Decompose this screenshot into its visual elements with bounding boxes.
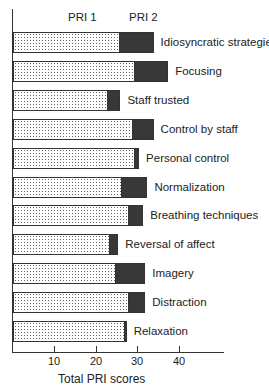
x-axis-label: Total PRI scores: [58, 372, 145, 386]
bar-segment-pri2: [121, 177, 147, 198]
x-tick-label: 40: [173, 355, 185, 367]
legend-pri2: PRI 2: [129, 11, 158, 23]
category-label: Idiosyncratic strategies: [161, 32, 269, 53]
x-axis: [12, 352, 224, 353]
stacked-bar-chart: PRI 1 PRI 2 10 20 30 40 Total PRI scores…: [0, 0, 269, 390]
category-label: Personal control: [146, 148, 229, 169]
bar-segment-pri1: [13, 263, 117, 284]
x-tick-label: 20: [90, 355, 102, 367]
category-label: Normalization: [154, 177, 224, 198]
x-tick-label: 30: [131, 355, 143, 367]
category-label: Staff trusted: [127, 90, 189, 111]
bar-segment-pri1: [13, 119, 133, 140]
category-label: Distraction: [152, 292, 206, 313]
bar-segment-pri2: [107, 90, 120, 111]
legend-pri1: PRI 1: [68, 11, 97, 23]
category-label: Control by staff: [161, 119, 238, 140]
x-tick: [137, 346, 138, 352]
bar-segment-pri2: [132, 119, 154, 140]
bar-segment-pri1: [13, 234, 111, 255]
bar-segment-pri1: [13, 205, 129, 226]
bar-segment-pri1: [13, 321, 125, 342]
bar-segment-pri2: [109, 234, 118, 255]
bar-segment-pri1: [13, 90, 108, 111]
x-tick: [179, 346, 180, 352]
x-tick-label: 10: [48, 355, 60, 367]
bar-segment-pri1: [13, 177, 123, 198]
bar-segment-pri1: [13, 32, 121, 53]
bar-segment-pri2: [119, 32, 153, 53]
bar-segment-pri2: [128, 205, 144, 226]
bar-segment-pri2: [134, 148, 139, 169]
x-tick: [96, 346, 97, 352]
x-tick: [54, 346, 55, 352]
bar-segment-pri2: [124, 321, 127, 342]
category-label: Reversal of affect: [125, 234, 214, 255]
category-label: Focusing: [175, 61, 222, 82]
category-label: Relaxation: [134, 321, 188, 342]
category-label: Imagery: [152, 263, 194, 284]
bar-segment-pri1: [13, 292, 129, 313]
category-label: Breathing techniques: [150, 205, 258, 226]
bar-segment-pri2: [134, 61, 168, 82]
bar-segment-pri1: [13, 61, 135, 82]
bar-segment-pri1: [13, 148, 135, 169]
bar-segment-pri2: [115, 263, 145, 284]
bar-segment-pri2: [128, 292, 146, 313]
